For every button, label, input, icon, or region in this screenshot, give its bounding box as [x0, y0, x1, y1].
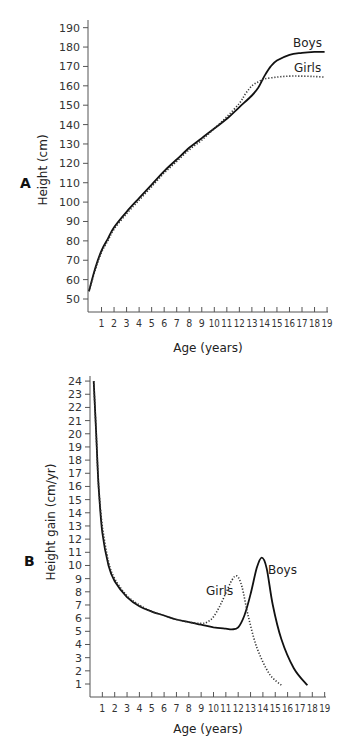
y-tick-label: 140 [59, 119, 80, 132]
y-tick-label: 160 [59, 80, 80, 93]
x-tick-label: 15 [271, 317, 282, 330]
x-tick-label: 6 [161, 702, 167, 715]
y-tick-label: 14 [68, 507, 82, 520]
y-tick-label: 9 [75, 573, 82, 586]
y-tick-label: 110 [59, 177, 80, 190]
x-tick-label: 18 [309, 317, 320, 330]
x-tick-label: 4 [136, 702, 142, 715]
x-tick-label: 6 [161, 317, 167, 330]
series-line-girls [94, 381, 282, 685]
y-tick-label: 20 [68, 428, 82, 441]
x-tick-label: 9 [198, 702, 204, 715]
x-tick-label: 14 [259, 317, 270, 330]
x-tick-label: 3 [124, 317, 130, 330]
y-tick-label: 21 [68, 415, 82, 428]
x-tick-label: 16 [282, 702, 293, 715]
series-line-girls [89, 76, 325, 291]
x-tick-label: 12 [234, 317, 245, 330]
y-tick-label: 10 [68, 559, 82, 572]
y-tick-label: 80 [66, 235, 80, 248]
x-tick-label: 19 [319, 702, 330, 715]
chart-a-lines [89, 52, 325, 291]
x-tick-label: 4 [136, 317, 142, 330]
x-tick-label: 9 [199, 317, 205, 330]
chart-a-x-axis-title: Age (years) [173, 341, 242, 355]
x-tick-label: 7 [174, 317, 180, 330]
x-tick-label: 14 [257, 702, 268, 715]
y-tick-label: 13 [68, 520, 82, 533]
chart-a-boys-label: Boys [293, 36, 322, 50]
growth-charts: 5060708090100110120130140150160170180190… [0, 0, 354, 747]
y-tick-label: 100 [59, 196, 80, 209]
y-tick-label: 1 [75, 678, 82, 691]
x-tick-label: 8 [186, 702, 192, 715]
x-tick-label: 17 [297, 317, 308, 330]
y-tick-label: 190 [59, 22, 80, 35]
panel-label-a: A [20, 175, 31, 191]
chart-b-y-axis-title: Height gain (cm/yr) [44, 464, 58, 581]
y-tick-label: 11 [68, 546, 82, 559]
y-tick-label: 2 [75, 665, 82, 678]
x-tick-label: 5 [149, 702, 155, 715]
chart-b-girls-label: Girls [206, 584, 233, 598]
y-tick-label: 3 [75, 652, 82, 665]
y-tick-label: 17 [68, 467, 82, 480]
chart-b-lines [94, 381, 308, 685]
x-tick-label: 19 [322, 317, 333, 330]
y-tick-label: 170 [59, 60, 80, 73]
x-tick-label: 13 [246, 317, 257, 330]
y-tick-label: 18 [68, 454, 82, 467]
y-tick-label: 50 [66, 293, 80, 306]
x-tick-label: 2 [111, 317, 117, 330]
series-line-boys [89, 52, 325, 291]
chart-a-height: 5060708090100110120130140150160170180190… [20, 20, 333, 355]
y-tick-label: 23 [68, 388, 82, 401]
x-tick-label: 7 [173, 702, 179, 715]
x-tick-label: 12 [233, 702, 244, 715]
y-tick-label: 7 [75, 599, 82, 612]
y-tick-label: 24 [68, 375, 82, 388]
y-tick-label: 5 [75, 625, 82, 638]
x-tick-label: 10 [209, 317, 220, 330]
x-tick-label: 1 [99, 317, 105, 330]
y-tick-label: 6 [75, 612, 82, 625]
chart-a-axes: 5060708090100110120130140150160170180190… [59, 20, 333, 330]
y-tick-label: 22 [68, 401, 82, 414]
chart-b-x-axis-title: Age (years) [173, 722, 242, 736]
x-tick-label: 11 [221, 317, 232, 330]
y-tick-label: 4 [75, 638, 82, 651]
y-tick-label: 180 [59, 41, 80, 54]
chart-a-girls-label: Girls [294, 61, 321, 75]
chart-b-boys-label: Boys [268, 563, 297, 577]
chart-b-height-gain: 1234567891011121314151617181920212223241… [24, 375, 330, 736]
x-tick-label: 3 [124, 702, 130, 715]
series-line-boys [94, 381, 308, 685]
y-tick-label: 16 [68, 480, 82, 493]
chart-a-y-axis-title: Height (cm) [36, 134, 50, 205]
x-tick-label: 15 [270, 702, 281, 715]
y-tick-label: 130 [59, 138, 80, 151]
y-tick-label: 90 [66, 215, 80, 228]
y-tick-label: 60 [66, 274, 80, 287]
y-tick-label: 15 [68, 494, 82, 507]
x-tick-label: 2 [112, 702, 118, 715]
x-tick-label: 10 [208, 702, 219, 715]
x-tick-label: 17 [294, 702, 305, 715]
x-tick-label: 13 [245, 702, 256, 715]
y-tick-label: 150 [59, 99, 80, 112]
y-tick-label: 8 [75, 586, 82, 599]
panel-label-b: B [24, 553, 35, 569]
x-tick-label: 16 [284, 317, 295, 330]
x-tick-label: 8 [186, 317, 192, 330]
y-tick-label: 70 [66, 254, 80, 267]
x-tick-label: 1 [99, 702, 105, 715]
y-tick-label: 12 [68, 533, 82, 546]
x-tick-label: 11 [220, 702, 231, 715]
y-tick-label: 120 [59, 157, 80, 170]
y-tick-label: 19 [68, 441, 82, 454]
x-tick-label: 5 [149, 317, 155, 330]
x-tick-label: 18 [307, 702, 318, 715]
